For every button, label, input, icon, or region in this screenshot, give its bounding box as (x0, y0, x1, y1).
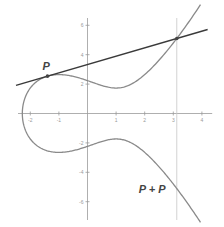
y-tick-label: 6 (81, 22, 84, 28)
y-tick-label: 2 (81, 81, 84, 87)
y-tick-label: -6 (79, 199, 84, 205)
point-p-label: P (42, 60, 50, 72)
x-tick-label: -1 (57, 117, 62, 123)
intersection-point-marker (175, 37, 179, 41)
x-tick-label: 1 (115, 117, 118, 123)
point-sum-label: P + P (139, 183, 166, 195)
x-tick-label: 4 (201, 117, 204, 123)
axes: -2-11234642-2-4-6 (18, 18, 212, 220)
diagram: -2-11234642-2-4-6 P P + P (0, 0, 224, 227)
x-tick-label: 3 (172, 117, 175, 123)
y-tick-label: -2 (79, 140, 84, 146)
y-tick-label: 4 (81, 52, 84, 58)
point-p-marker (46, 74, 50, 78)
x-tick-label: -2 (28, 117, 33, 123)
elliptic-curve-plot: -2-11234642-2-4-6 P P + P (0, 0, 224, 227)
x-tick-label: 2 (143, 117, 146, 123)
y-tick-label: -4 (79, 169, 84, 175)
tangent-line (16, 29, 208, 85)
